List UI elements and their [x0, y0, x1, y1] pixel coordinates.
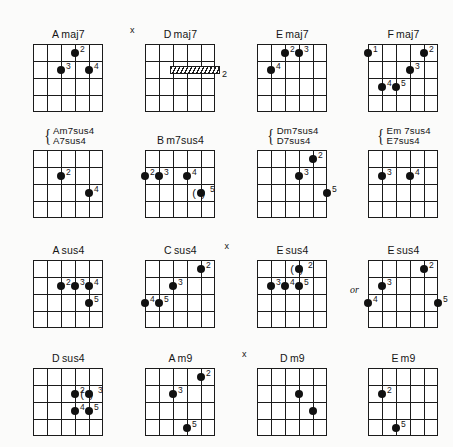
finger-number: 5: [401, 420, 406, 428]
finger-dot: [183, 172, 191, 180]
finger-dot: [141, 172, 149, 180]
finger-number: 4: [276, 62, 281, 70]
chord-label-dmaj7: Dmaj7x: [124, 14, 237, 40]
fretboard: [257, 368, 327, 436]
fret-line: [258, 95, 326, 96]
chord-root: F: [387, 28, 394, 40]
chord-label-dsus4: Dsus4: [12, 338, 125, 364]
fretboard: [368, 150, 438, 218]
muted-string-marker: x: [225, 241, 230, 251]
fretboard-grid-em7sus4: 34: [347, 146, 453, 222]
finger-dot: [85, 66, 93, 74]
optional-note-parentheses: (): [79, 390, 98, 398]
fretboard: [33, 150, 103, 218]
chord-name: Fmaj7: [387, 29, 419, 40]
finger-number: 5: [210, 185, 215, 193]
chord-quality: m7sus4: [166, 134, 204, 146]
finger-number: 4: [192, 168, 197, 176]
finger-dot: [323, 189, 331, 197]
chord-diagram-fmaj7: Fmaj712345: [347, 14, 453, 116]
fret-line: [146, 311, 214, 312]
chord-root: E: [276, 244, 283, 256]
finger-number: 3: [387, 278, 392, 286]
chord-diagram-dmaj7: Dmaj7x2: [124, 14, 237, 116]
fret-line: [369, 95, 437, 96]
fretboard-grid-esus4-b: 2345: [347, 256, 453, 332]
fretboard: [145, 44, 215, 112]
finger-number: 2: [318, 151, 323, 159]
fret-line: [258, 402, 326, 403]
fretboard-grid-dmaj7: 2: [124, 40, 237, 116]
chord-label-emaj7: Emaj7: [236, 14, 349, 40]
finger-number: 3: [387, 168, 392, 176]
brace-glyph: {: [377, 131, 384, 141]
chord-chart-sheet: Amaj7234Dmaj7x2Emaj7234Fmaj712345{Am7sus…: [0, 0, 453, 447]
chord-diagram-dsus4: Dsus42()345: [12, 338, 125, 440]
chord-label-em9: Em9: [347, 338, 453, 364]
finger-dot: [281, 282, 289, 290]
finger-number: 1: [373, 45, 378, 53]
fret-line: [34, 402, 102, 403]
fretboard-grid-csus4: 2345: [124, 256, 237, 332]
chord-label-am9: Am9: [124, 338, 237, 364]
chord-name: Bm7sus4: [157, 135, 204, 146]
fret-line: [146, 419, 214, 420]
fret-line: [146, 184, 214, 185]
finger-number: 3: [178, 386, 183, 394]
chord-quality: sus4: [62, 244, 85, 256]
chord-name: Am9: [168, 353, 192, 364]
finger-dot: [392, 424, 400, 432]
finger-dot: [378, 83, 386, 91]
chord-root: E: [391, 352, 398, 364]
fret-line: [146, 294, 214, 295]
fretboard-grid-am7sus4: 24: [12, 146, 125, 222]
finger-dot: [378, 390, 386, 398]
finger-dot: [169, 390, 177, 398]
finger-number: 3: [415, 62, 420, 70]
chord-label-bm7sus4: Bm7sus4: [124, 120, 237, 146]
finger-dot: [309, 407, 317, 415]
fret-line: [369, 184, 437, 185]
fretboard-grid-fmaj7: 12345: [347, 40, 453, 116]
fret-line: [258, 61, 326, 62]
finger-dot: [378, 172, 386, 180]
chord-diagram-em7sus4: {Em 7sus4E7sus434: [347, 120, 453, 222]
finger-dot: [155, 299, 163, 307]
finger-dot: [85, 189, 93, 197]
chord-name: Esus4: [387, 245, 419, 256]
fretboard-grid-em9: 25: [347, 364, 453, 440]
fret-line: [34, 419, 102, 420]
finger-dot: [281, 49, 289, 57]
fret-line: [146, 201, 214, 202]
optional-note-parentheses: (): [289, 265, 308, 273]
fretboard: [33, 368, 103, 436]
optional-note-parentheses: (): [191, 189, 210, 197]
fret-line: [34, 311, 102, 312]
finger-dot: [364, 49, 372, 57]
fret-line: [146, 167, 214, 168]
muted-string-marker: x: [130, 25, 135, 35]
fret-line: [258, 419, 326, 420]
chord-name: Csus4: [164, 245, 197, 256]
chord-diagram-bm7sus4: Bm7sus4234()5: [124, 120, 237, 222]
chord-name: Dmaj7: [164, 29, 197, 40]
chord-diagram-asus4: Asus42345: [12, 230, 125, 332]
finger-number: 2: [308, 261, 313, 269]
finger-dot: [85, 282, 93, 290]
brace-glyph: {: [44, 131, 51, 141]
finger-number: 3: [66, 62, 71, 70]
finger-dot: [267, 66, 275, 74]
finger-number: 5: [94, 403, 99, 411]
brace-glyph: {: [268, 131, 275, 141]
finger-number: 3: [178, 278, 183, 286]
chord-label-csus4: Csus4x: [124, 230, 237, 256]
finger-dot: [85, 407, 93, 415]
chord-label-asus4: Asus4: [12, 230, 125, 256]
finger-number: 5: [192, 420, 197, 428]
chord-diagram-dm7sus4: {Dm7sus4D7sus4235: [236, 120, 349, 222]
fret-line: [146, 78, 214, 79]
fret-line: [34, 385, 102, 386]
chord-name: Dm9: [280, 353, 305, 364]
fretboard-grid-asus4: 2345: [12, 256, 125, 332]
chord-label-em7sus4: {Em 7sus4E7sus4: [347, 120, 453, 146]
